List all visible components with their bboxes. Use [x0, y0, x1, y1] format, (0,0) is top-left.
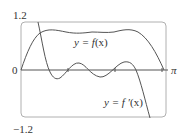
f-label-prefix: y = — [74, 36, 92, 48]
x-end-label: π — [171, 65, 177, 76]
chart — [0, 0, 189, 138]
fp-label-prefix: y = — [104, 96, 122, 108]
y-max-label: 1.2 — [13, 10, 27, 21]
y-min-label: −1.2 — [13, 124, 33, 135]
fp-label-arg: (x) — [130, 96, 143, 108]
fp-label-func: f ′ — [122, 96, 130, 108]
x-origin-label: 0 — [12, 65, 18, 76]
f-prime-curve-label: y = f ′(x) — [104, 97, 143, 108]
f-curve-label: y = f(x) — [74, 37, 108, 48]
f-label-arg: (x) — [95, 36, 108, 48]
